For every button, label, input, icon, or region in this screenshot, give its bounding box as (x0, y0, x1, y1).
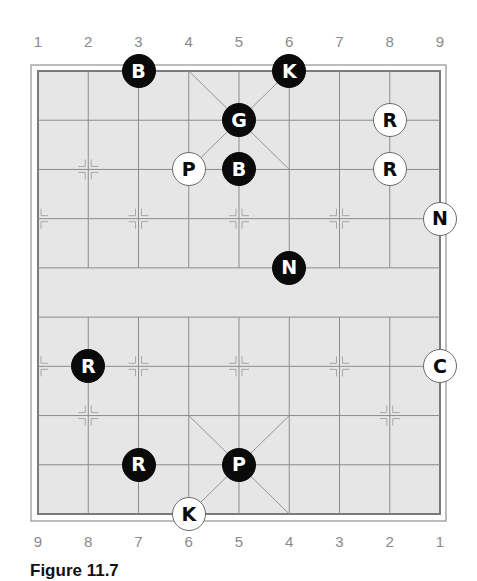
piece-black-knight[interactable]: N (272, 251, 306, 285)
figure-caption: Figure 11.7 (30, 561, 119, 581)
piece-white-pawn[interactable]: P (172, 152, 206, 186)
piece-label: B (232, 160, 246, 179)
piece-black-rook[interactable]: R (122, 448, 156, 482)
piece-label: G (231, 111, 247, 130)
piece-label: R (81, 357, 96, 376)
piece-white-rook[interactable]: R (373, 103, 407, 137)
piece-black-bishop[interactable]: B (122, 54, 156, 88)
piece-white-rook[interactable]: R (373, 152, 407, 186)
piece-label: R (382, 160, 397, 179)
piece-label: P (232, 455, 246, 474)
piece-black-king[interactable]: K (272, 54, 306, 88)
file-label: 1 (428, 530, 452, 554)
piece-black-guard[interactable]: G (222, 103, 256, 137)
file-label: 3 (328, 530, 352, 554)
piece-label: N (281, 258, 297, 277)
piece-label: R (131, 455, 146, 474)
piece-white-king[interactable]: K (172, 497, 206, 531)
piece-label: K (282, 62, 297, 81)
piece-label: B (131, 62, 145, 81)
file-label: 5 (227, 530, 251, 554)
file-labels-bottom: 987654321 (0, 530, 477, 554)
piece-label: C (433, 357, 447, 376)
piece-label: P (182, 160, 196, 179)
piece-label: R (382, 111, 397, 130)
piece-black-pawn[interactable]: P (222, 448, 256, 482)
piece-label: N (432, 209, 448, 228)
file-label: 7 (127, 530, 151, 554)
file-label: 6 (177, 530, 201, 554)
file-label: 4 (277, 530, 301, 554)
file-label: 8 (76, 530, 100, 554)
piece-white-knight[interactable]: N (423, 202, 457, 236)
file-label: 9 (26, 530, 50, 554)
file-label: 2 (378, 530, 402, 554)
piece-label: K (181, 505, 196, 524)
